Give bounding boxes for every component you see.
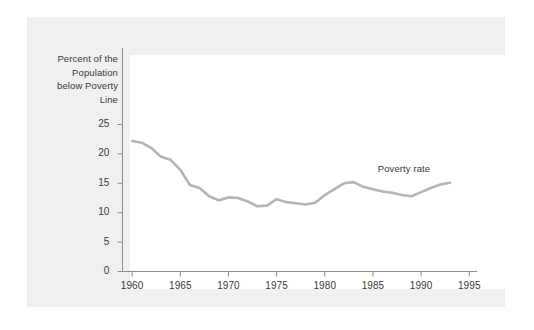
y-tick-label: 10 — [80, 206, 110, 217]
y-tick-label: 25 — [80, 118, 110, 129]
y-tick-marks — [118, 125, 123, 272]
x-tick-label: 1960 — [112, 280, 152, 291]
x-tick-marks — [132, 272, 469, 277]
x-tick-label: 1980 — [305, 280, 345, 291]
axis-lines — [123, 48, 478, 272]
x-tick-label: 1965 — [160, 280, 200, 291]
y-tick-label: 20 — [80, 147, 110, 158]
x-tick-label: 1970 — [208, 280, 248, 291]
series-label: Poverty rate — [378, 163, 430, 174]
x-tick-label: 1985 — [353, 280, 393, 291]
y-tick-label: 15 — [80, 177, 110, 188]
x-tick-label: 1975 — [257, 280, 297, 291]
y-tick-label: 0 — [80, 265, 110, 276]
x-tick-label: 1990 — [401, 280, 441, 291]
y-tick-label: 5 — [80, 236, 110, 247]
x-tick-label: 1995 — [449, 280, 489, 291]
